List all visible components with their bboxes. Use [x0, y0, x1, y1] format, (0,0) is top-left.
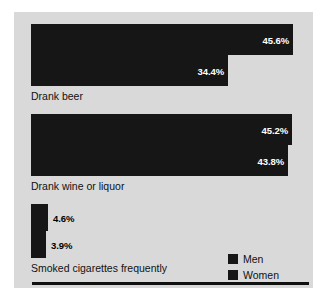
bottom-divider	[32, 282, 309, 285]
bar-women-drank-beer[interactable]: 34.4%	[31, 55, 228, 86]
bar-value-women-drank-wine-or-liquor: 43.8%	[258, 155, 284, 166]
bar-value-men-drank-beer: 45.6%	[263, 34, 289, 45]
plot-area: 45.6% 34.4% Drank beer 45.2% 43.8% Drank…	[14, 12, 313, 288]
bar-chart: 45.6% 34.4% Drank beer 45.2% 43.8% Drank…	[0, 0, 325, 300]
legend-item-women[interactable]: Women	[228, 268, 308, 282]
legend-item-men[interactable]: Men	[228, 252, 308, 266]
chart-panel: 45.6% 34.4% Drank beer 45.2% 43.8% Drank…	[14, 12, 313, 288]
legend-label-men: Men	[243, 253, 263, 265]
bar-men-drank-beer[interactable]: 45.6%	[31, 24, 293, 55]
chart-legend: Men Women	[228, 252, 308, 284]
legend-label-women: Women	[243, 269, 279, 281]
bar-men-smoked-cigarettes-frequently[interactable]: 4.6%	[31, 204, 48, 231]
bar-women-smoked-cigarettes-frequently[interactable]: 3.9%	[31, 231, 46, 258]
bar-men-drank-wine-or-liquor[interactable]: 45.2%	[31, 114, 292, 145]
bar-value-women-smoked-cigarettes-frequently: 3.9%	[51, 239, 72, 250]
category-label-smoked-cigarettes-frequently: Smoked cigarettes frequently	[31, 262, 167, 274]
legend-swatch-women-icon	[228, 270, 238, 280]
legend-swatch-men-icon	[228, 254, 238, 264]
bar-women-drank-wine-or-liquor[interactable]: 43.8%	[31, 145, 288, 176]
category-label-drank-wine-or-liquor: Drank wine or liquor	[31, 180, 124, 192]
bar-value-men-smoked-cigarettes-frequently: 4.6%	[53, 212, 74, 223]
bar-value-women-drank-beer: 34.4%	[198, 65, 224, 76]
category-label-drank-beer: Drank beer	[31, 90, 83, 102]
bar-value-men-drank-wine-or-liquor: 45.2%	[262, 124, 288, 135]
